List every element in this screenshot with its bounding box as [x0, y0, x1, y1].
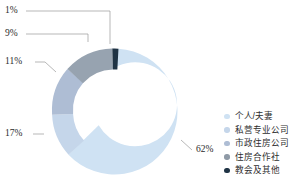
- data-label-11pct: 11%: [5, 57, 22, 67]
- data-label-62pct: 62%: [196, 145, 213, 155]
- leader-lines: [26, 11, 192, 150]
- data-label-9pct: 9%: [5, 29, 18, 39]
- data-label-17pct: 17%: [5, 129, 22, 139]
- legend-item-individual-couple[interactable]: 个人/夫妻: [224, 110, 296, 123]
- legend-item-label: 住房合作社: [235, 153, 280, 162]
- donut-segments: [52, 49, 178, 175]
- legend-swatch-icon: [224, 141, 230, 147]
- legend-swatch-icon: [224, 154, 230, 160]
- donut-chart-figure: 1% 9% 11% 17% 62% 个人/夫妻 私营专业公司 市政住房公司 住房…: [0, 0, 297, 191]
- leader-line-11pct: [35, 62, 56, 72]
- legend-item-housing-cooperative[interactable]: 住房合作社: [224, 150, 296, 163]
- legend-item-label: 个人/夫妻: [235, 112, 273, 121]
- legend-item-label: 市政住房公司: [235, 139, 289, 148]
- leader-line-1pct: [26, 11, 110, 44]
- legend-swatch-icon: [224, 114, 230, 120]
- leader-line-9pct: [26, 34, 88, 42]
- chart-legend: 个人/夫妻 私营专业公司 市政住房公司 住房合作社 教会及其他: [224, 110, 296, 177]
- legend-item-label: 私营专业公司: [235, 126, 289, 135]
- legend-swatch-icon: [224, 127, 230, 133]
- legend-item-municipal-housing[interactable]: 市政住房公司: [224, 137, 296, 150]
- legend-item-church-other[interactable]: 教会及其他: [224, 164, 296, 177]
- legend-item-label: 教会及其他: [235, 166, 280, 175]
- leader-line-62pct: [181, 140, 192, 150]
- donut-slice-church-other[interactable]: [112, 49, 118, 70]
- data-label-1pct: 1%: [5, 6, 18, 16]
- legend-swatch-icon: [224, 168, 230, 174]
- legend-item-private-company[interactable]: 私营专业公司: [224, 123, 296, 136]
